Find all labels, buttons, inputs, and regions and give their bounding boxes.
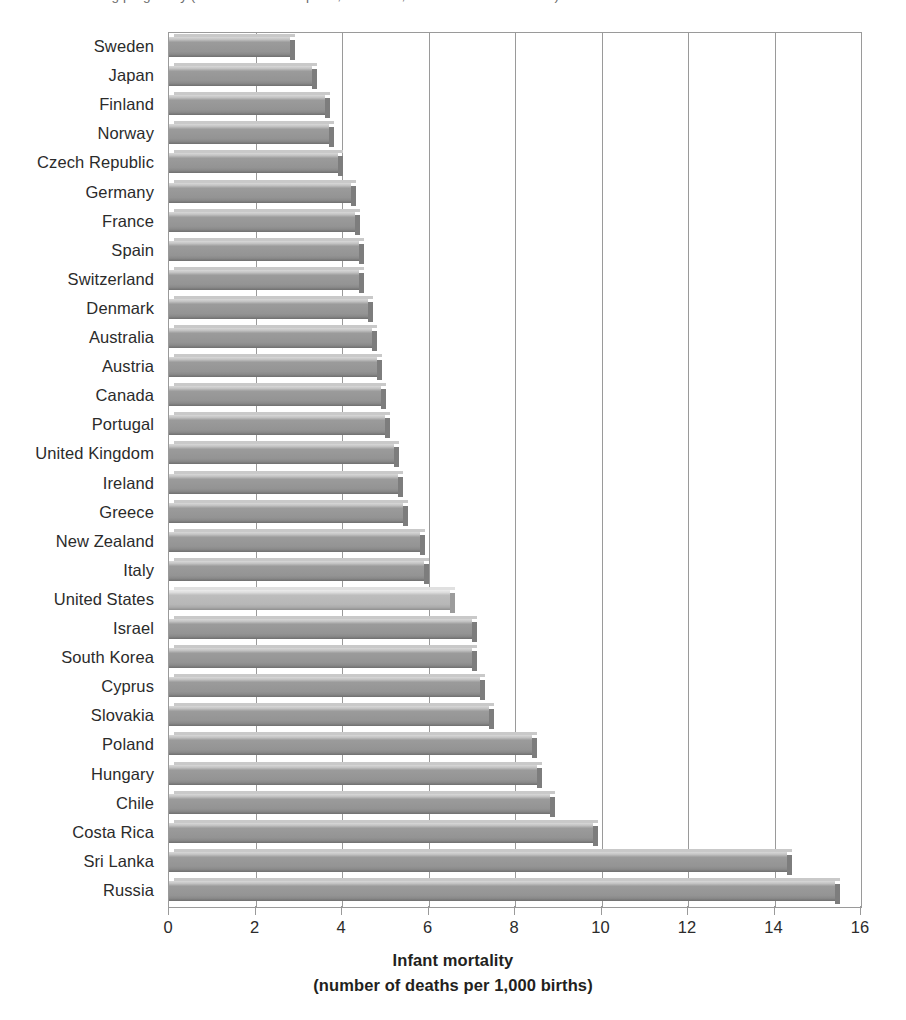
bar [169,735,532,755]
x-axis-tick [341,906,342,915]
bar [169,270,359,290]
bar [169,183,351,203]
bar-top-face [174,150,343,153]
category-label: Italy [123,556,154,585]
bar-row [169,440,861,469]
x-axis-tick-label: 14 [764,918,782,937]
category-label: Sweden [94,32,154,61]
category-label: United States [54,585,154,614]
bar [169,66,312,86]
bar-top-face [174,732,537,735]
plot-area [168,32,862,908]
bar-side-face [489,709,494,729]
bar-side-face [420,535,425,555]
bar [169,444,394,464]
bar-side-face [472,622,477,642]
bar-side-face [835,884,840,904]
bar-row [169,179,861,208]
bar-top-face [174,587,455,590]
x-axis-title: Infant mortality (number of deaths per 1… [0,948,906,998]
bar-side-face [351,186,356,206]
bar [169,386,381,406]
bar [169,95,325,115]
category-label: Canada [96,381,154,410]
bar-highlighted [169,590,450,610]
x-axis-tick-label: 16 [851,918,869,937]
bar [169,677,480,697]
bar-side-face [359,273,364,293]
bar [169,153,338,173]
bar [169,765,537,785]
bar-top-face [174,34,295,37]
bar-side-face [372,331,377,351]
category-label: Costa Rica [72,818,154,847]
bar [169,561,424,581]
category-label: Chile [116,789,154,818]
bar-top-face [174,529,425,532]
category-label: Czech Republic [37,148,154,177]
bar-side-face [377,360,382,380]
bar-row [169,295,861,324]
category-axis-labels: SwedenJapanFinlandNorwayCzech RepublicGe… [0,32,162,906]
bar-top-face [174,296,373,299]
x-axis-tick-label: 4 [336,918,345,937]
bar-row [169,557,861,586]
bar-row [169,615,861,644]
x-axis: 0246810121416 [168,906,862,952]
category-label: New Zealand [56,527,154,556]
bar-side-face [472,651,477,671]
bar-top-face [174,238,364,241]
bar-top-face [174,616,477,619]
bar-top-face [174,354,382,357]
bar-side-face [403,506,408,526]
bar-row [169,761,861,790]
bar [169,212,355,232]
x-axis-tick [428,906,429,915]
bar-row [169,731,861,760]
category-label: Sri Lanka [83,847,154,876]
category-label: Ireland [103,469,154,498]
bar-row [169,848,861,877]
x-axis-tick [514,906,515,915]
bar-row [169,382,861,411]
bar [169,357,377,377]
bar-row [169,470,861,499]
bar-top-face [174,849,792,852]
bar [169,881,835,901]
x-axis-tick [601,906,602,915]
bar-side-face [398,477,403,497]
x-axis-tick [687,906,688,915]
bar [169,794,550,814]
x-axis-tick-label: 0 [163,918,172,937]
category-label: United Kingdom [35,439,154,468]
bar-top-face [174,674,485,677]
bar-row [169,208,861,237]
x-axis-tick [168,906,169,915]
bar-side-face [355,215,360,235]
bar-side-face [359,244,364,264]
x-axis-tick-label: 6 [423,918,432,937]
category-label: Spain [111,236,154,265]
bar-row [169,499,861,528]
x-axis-tick-label: 2 [250,918,259,937]
bar [169,532,420,552]
infant-mortality-bar-chart: SwedenJapanFinlandNorwayCzech RepublicGe… [0,0,906,1020]
bar-top-face [174,180,356,183]
bar [169,124,329,144]
bar [169,328,372,348]
category-label: France [102,207,154,236]
bar-row [169,266,861,295]
bar-top-face [174,500,408,503]
category-label: Poland [102,730,154,759]
bar-top-face [174,121,334,124]
bar-row [169,353,861,382]
bar-side-face [325,98,330,118]
x-axis-title-line-2: (number of deaths per 1,000 births) [0,973,906,998]
bar-row [169,702,861,731]
category-label: Russia [103,876,154,905]
category-label: Switzerland [68,265,154,294]
bar-side-face [450,593,455,613]
x-axis-tick-label: 12 [678,918,696,937]
x-axis-tick [860,906,861,915]
category-label: Austria [102,352,154,381]
